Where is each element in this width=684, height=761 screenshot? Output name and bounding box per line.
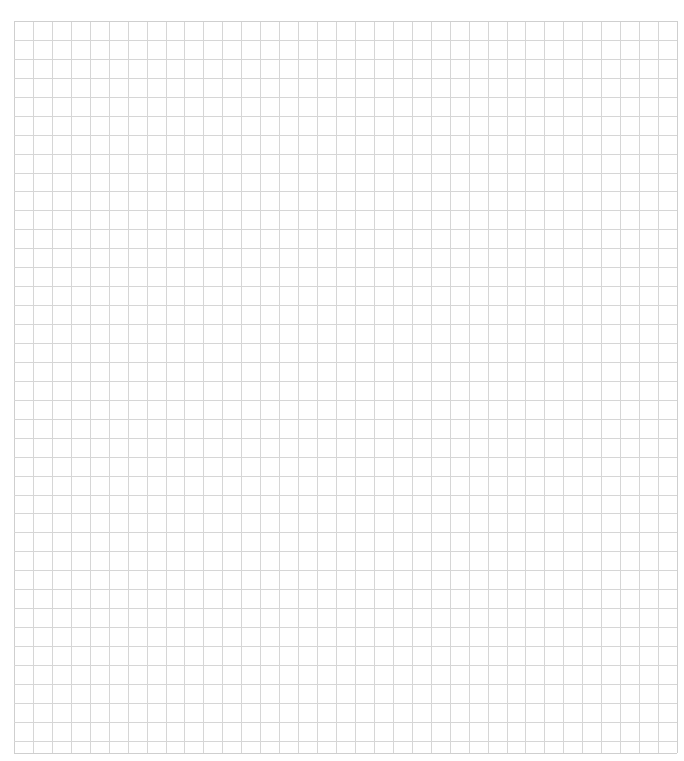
grid-lines	[0, 0, 684, 761]
graph-paper-sheet	[0, 0, 684, 761]
